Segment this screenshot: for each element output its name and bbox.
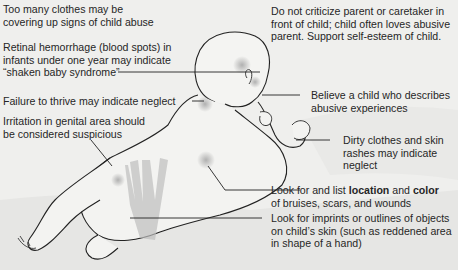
annotation-line: Do not criticize parent or caretaker in bbox=[271, 5, 450, 18]
annotation-line: Too many clothes may be bbox=[3, 3, 154, 16]
hand-right bbox=[292, 121, 310, 140]
annotation-line: parent. Support self-esteem of child. bbox=[271, 30, 450, 43]
annotation-clothes: Too many clothes may be covering up sign… bbox=[3, 3, 154, 28]
bruise-cheek bbox=[249, 76, 261, 88]
annotation-failure-to-thrive: Failure to thrive may indicate neglect bbox=[3, 95, 176, 108]
annotation-genital-irritation: Irritation in genital area should be con… bbox=[3, 115, 145, 140]
emphasis-color: color bbox=[413, 184, 439, 196]
annotation-believe-child: Believe a child who describes abusive ex… bbox=[311, 89, 450, 114]
bruise-shoulder bbox=[197, 96, 213, 112]
bruise-head bbox=[233, 56, 251, 74]
head-outline bbox=[195, 32, 269, 107]
annotation-line: be considered suspicious bbox=[3, 128, 145, 141]
annotation-line: Retinal hemorrhage (blood spots) in bbox=[3, 41, 171, 54]
annotation-do-not-criticize: Do not criticize parent or caretaker in … bbox=[271, 5, 450, 43]
annotation-line: covering up signs of child abuse bbox=[3, 16, 154, 29]
text-segment: and bbox=[389, 184, 413, 196]
text-segment: Look for and list bbox=[271, 184, 349, 196]
abuse-indicators-diagram: Too many clothes may be covering up sign… bbox=[0, 0, 458, 270]
annotation-line: front of child; child often loves abusiv… bbox=[271, 18, 450, 31]
emphasis-location: location bbox=[349, 184, 390, 196]
annotation-line: rashes may indicate bbox=[343, 147, 444, 160]
annotation-retinal-hemorrhage: Retinal hemorrhage (blood spots) in infa… bbox=[3, 41, 171, 79]
bruise-hip bbox=[111, 173, 125, 187]
bruise-back bbox=[197, 151, 215, 169]
leader-genital bbox=[91, 140, 112, 166]
annotation-line: in shape of a hand) bbox=[271, 237, 452, 250]
annotation-line: Look for imprints or outlines of objects bbox=[271, 212, 452, 225]
annotation-line: “shaken baby syndrome” bbox=[3, 66, 171, 79]
annotation-line: Failure to thrive may indicate neglect bbox=[3, 95, 176, 108]
annotation-line: Irritation in genital area should bbox=[3, 115, 145, 128]
annotation-dirty-clothes: Dirty clothes and skin rashes may indica… bbox=[343, 134, 444, 172]
annotation-line: infants under one year may indicate bbox=[3, 54, 171, 67]
annotation-line: on child’s skin (such as reddened area bbox=[271, 225, 452, 238]
annotation-line: abusive experiences bbox=[311, 102, 450, 115]
annotation-imprints: Look for imprints or outlines of objects… bbox=[271, 212, 452, 250]
annotation-bruises: Look for and list location and color of … bbox=[271, 184, 439, 209]
annotation-line: neglect bbox=[343, 159, 444, 172]
hand-left bbox=[260, 112, 272, 126]
annotation-line: Look for and list location and color bbox=[271, 184, 439, 197]
annotation-line: Dirty clothes and skin bbox=[343, 134, 444, 147]
annotation-line: Believe a child who describes bbox=[311, 89, 450, 102]
annotation-line: of bruises, scars, and wounds bbox=[271, 197, 439, 210]
